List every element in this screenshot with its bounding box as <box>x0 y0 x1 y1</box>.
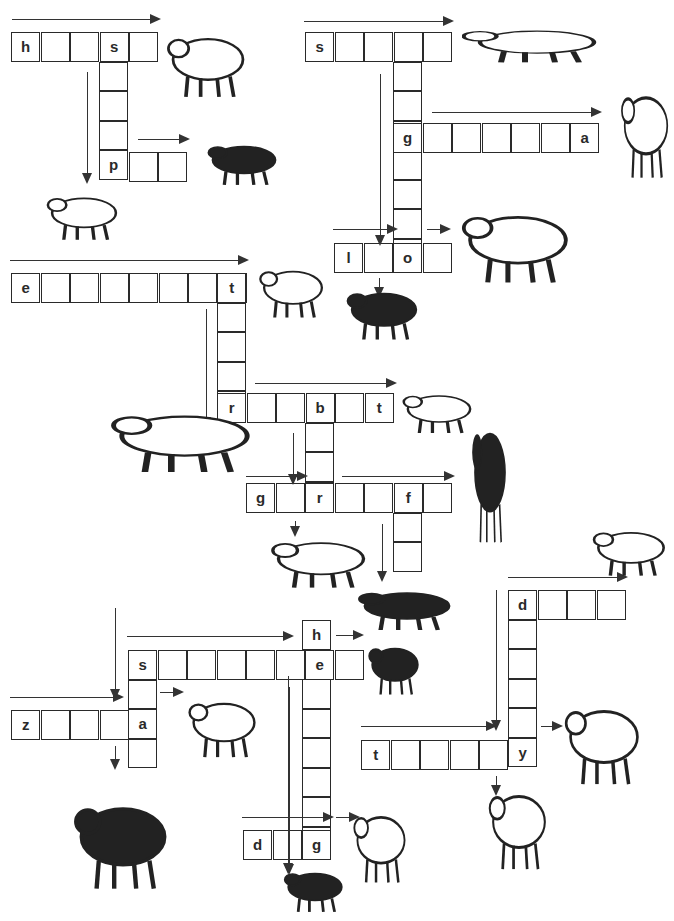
crossword-cell-donkey[interactable] <box>508 649 537 679</box>
crossword-cell-pig[interactable] <box>129 152 158 182</box>
arrow-down-icon <box>115 746 116 768</box>
crossword-cell-stag[interactable] <box>128 680 157 710</box>
crossword-cell-zebra[interactable]: z <box>11 710 40 740</box>
crossword-cell-gorilla[interactable] <box>482 123 511 153</box>
crossword-cell-kangaroo[interactable] <box>393 91 422 121</box>
crossword-cell-lion[interactable] <box>364 243 393 273</box>
crossword-cell-donkey[interactable]: y <box>508 738 537 768</box>
crossword-cell-squirrel[interactable]: e <box>305 650 334 680</box>
arrow-down-icon <box>382 524 383 580</box>
crossword-cell-gorilla[interactable] <box>452 123 481 153</box>
crossword-cell-snake[interactable] <box>423 32 452 62</box>
crossword-cell-sheep[interactable] <box>99 121 128 151</box>
crossword-cell-horse[interactable] <box>70 32 99 62</box>
crossword-cell-gorilla[interactable]: a <box>570 123 599 153</box>
crossword-cell-duck[interactable] <box>597 590 626 620</box>
crossword-cell-giraffe[interactable] <box>335 483 364 513</box>
crossword-cell-turkey[interactable] <box>479 740 508 770</box>
zebra-illustration-icon <box>184 688 264 760</box>
crossword-cell-turkey[interactable] <box>420 740 449 770</box>
crossword-cell-hedgehog[interactable] <box>302 709 331 739</box>
crossword-cell-giraffe[interactable] <box>276 483 305 513</box>
crossword-cell-gorilla[interactable]: g <box>393 123 422 153</box>
crossword-cell-squirrel[interactable] <box>246 650 275 680</box>
crossword-cell-squirrel[interactable]: s <box>128 650 157 680</box>
crossword-cell-pig[interactable] <box>158 152 187 182</box>
crossword-cell-giraffe[interactable]: f <box>394 483 423 513</box>
crossword-cell-dog[interactable]: d <box>243 830 272 860</box>
crossword-cell-lion[interactable]: o <box>393 243 422 273</box>
crossword-cell-gorilla[interactable] <box>511 123 540 153</box>
crossword-cell-horse[interactable] <box>129 32 158 62</box>
crossword-cell-dog[interactable]: g <box>302 830 331 860</box>
crossword-cell-giraffe[interactable] <box>364 483 393 513</box>
crossword-cell-hedgehog[interactable]: h <box>302 620 331 650</box>
crossword-cell-squirrel[interactable] <box>187 650 216 680</box>
crossword-cell-giraffe[interactable] <box>423 483 452 513</box>
crossword-cell-snake[interactable] <box>394 32 423 62</box>
crossword-cell-duck[interactable]: d <box>508 590 537 620</box>
crossword-cell-bear[interactable] <box>305 452 334 482</box>
crossword-cell-horse[interactable] <box>41 32 70 62</box>
crossword-cell-hedgehog[interactable] <box>302 768 331 798</box>
crossword-cell-zebra[interactable] <box>41 710 70 740</box>
crossword-cell-turkey[interactable]: t <box>361 740 390 770</box>
crossword-cell-giraffe[interactable]: g <box>246 483 275 513</box>
horse-illustration-icon <box>162 22 254 100</box>
crossword-cell-squirrel[interactable] <box>335 650 364 680</box>
crossword-cell-donkey[interactable] <box>508 679 537 709</box>
crossword-cell-tiger[interactable] <box>217 303 246 333</box>
crossword-cell-sheep[interactable] <box>99 91 128 121</box>
crossword-cell-elephant[interactable] <box>70 273 99 303</box>
crossword-cell-elephant[interactable] <box>100 273 129 303</box>
crossword-cell-donkey[interactable] <box>508 620 537 650</box>
arrow-down-icon <box>293 433 294 483</box>
crossword-cell-turkey[interactable] <box>450 740 479 770</box>
crossword-cell-rabbit[interactable] <box>276 393 305 423</box>
crossword-cell-rabbit[interactable]: t <box>365 393 394 423</box>
crossword-cell-elephant[interactable] <box>159 273 188 303</box>
crossword-cell-snake[interactable]: s <box>305 32 334 62</box>
crossword-cell-kangaroo[interactable] <box>393 150 422 180</box>
crossword-cell-tiger[interactable] <box>217 332 246 362</box>
crossword-cell-zebra[interactable] <box>70 710 99 740</box>
crossword-cell-elephant[interactable] <box>129 273 158 303</box>
crossword-cell-elephant[interactable] <box>188 273 217 303</box>
crossword-cell-elephant[interactable]: e <box>11 273 40 303</box>
crossword-cell-lion[interactable]: l <box>334 243 363 273</box>
crossword-cell-stag[interactable]: a <box>128 709 157 739</box>
crossword-cell-squirrel[interactable] <box>158 650 187 680</box>
crossword-cell-hedgehog[interactable] <box>302 679 331 709</box>
crossword-cell-rabbit[interactable]: b <box>306 393 335 423</box>
crossword-cell-donkey[interactable] <box>508 708 537 738</box>
crossword-cell-squirrel[interactable] <box>276 650 305 680</box>
crossword-cell-squirrel[interactable] <box>217 650 246 680</box>
crossword-cell-turkey[interactable] <box>391 740 420 770</box>
crossword-cell-horse[interactable]: h <box>11 32 40 62</box>
crossword-cell-elephant[interactable] <box>41 273 70 303</box>
crossword-cell-zebra[interactable] <box>100 710 129 740</box>
crossword-cell-sheep[interactable]: p <box>99 150 128 180</box>
crossword-cell-bear[interactable] <box>305 423 334 453</box>
crossword-cell-snake[interactable] <box>335 32 364 62</box>
crossword-cell-fox[interactable] <box>393 542 422 572</box>
crossword-cell-stag[interactable] <box>128 739 157 769</box>
squirrel-illustration-icon <box>365 635 425 697</box>
crossword-cell-snake[interactable] <box>364 32 393 62</box>
crossword-cell-lion[interactable] <box>423 243 452 273</box>
crossword-cell-sheep[interactable] <box>99 62 128 92</box>
crossword-cell-tiger[interactable] <box>217 362 246 392</box>
arrow-right-icon <box>333 229 396 230</box>
crossword-cell-kangaroo[interactable] <box>393 180 422 210</box>
crossword-cell-giraffe[interactable]: r <box>305 483 334 513</box>
crossword-cell-rabbit[interactable] <box>335 393 364 423</box>
crossword-cell-duck[interactable] <box>567 590 596 620</box>
crossword-cell-gorilla[interactable] <box>541 123 570 153</box>
crossword-cell-tiger[interactable]: t <box>217 273 246 303</box>
crossword-cell-duck[interactable] <box>538 590 567 620</box>
crossword-cell-fox[interactable] <box>393 513 422 543</box>
crossword-cell-kangaroo[interactable] <box>393 62 422 92</box>
crossword-cell-gorilla[interactable] <box>423 123 452 153</box>
crossword-cell-horse[interactable]: s <box>100 32 129 62</box>
crossword-cell-hedgehog[interactable] <box>302 738 331 768</box>
